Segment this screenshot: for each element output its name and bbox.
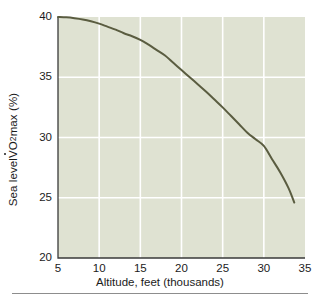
- x-tick-label-20: 20: [167, 262, 197, 274]
- x-axis-title: Altitude, feet (thousands): [0, 276, 320, 288]
- x-tick-label-15: 15: [125, 262, 155, 274]
- x-tick-label-10: 10: [84, 262, 114, 274]
- x-tick-label-30: 30: [249, 262, 279, 274]
- x-tick-label-25: 25: [208, 262, 238, 274]
- chart-figure: Sea level VO2max (%) 2025303540 51015202…: [0, 0, 320, 299]
- y-tick-label-40: 40: [12, 11, 52, 22]
- x-tick-label-5: 5: [43, 262, 73, 274]
- y-tick-label-25: 25: [12, 192, 52, 203]
- figure-bottom-rule: [12, 293, 308, 294]
- y-tick-label-35: 35: [12, 71, 52, 82]
- x-tick-label-35: 35: [290, 262, 320, 274]
- y-tick-label-30: 30: [12, 132, 52, 143]
